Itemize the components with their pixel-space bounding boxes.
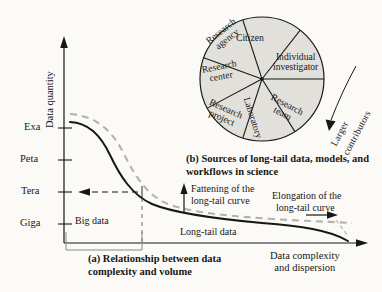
annotation-fattening-line2: long-tail curve xyxy=(191,195,250,206)
y-tick-label-peta: Peta xyxy=(20,153,38,165)
annotation-elongation-line1: Elongation of the xyxy=(272,190,341,201)
y-axis-title: Data quantity xyxy=(44,71,56,128)
contributors-arc xyxy=(331,66,356,120)
solid-longtail-curve xyxy=(70,122,348,241)
x-axis-arrowhead-icon xyxy=(356,239,368,247)
pie-center-dot xyxy=(260,77,264,81)
caption-panel-b: (b) Sources of long-tail data, models, a… xyxy=(186,153,382,179)
region-label-big-data: Big data xyxy=(75,215,109,226)
region-label-long-tail-data: Long-tail data xyxy=(180,226,236,237)
y-axis-arrowhead-icon xyxy=(60,36,68,48)
pie-label-individual-investigator: Individual investigator xyxy=(273,52,318,72)
big-data-bracket xyxy=(66,232,142,250)
annotation-elongation-line2: long-tail curve xyxy=(276,202,335,213)
caption-panel-a: (a) Relationship between data complexity… xyxy=(88,253,268,279)
x-axis-title: Data complexity and dispersion xyxy=(270,250,340,274)
y-tick-label-tera: Tera xyxy=(21,185,40,197)
figure-graphics xyxy=(0,0,382,292)
pie-label-individual-investigator-line2: investigator xyxy=(273,61,318,72)
fattening-arrowhead-icon xyxy=(180,183,187,194)
x-axis-title-line2: and dispersion xyxy=(274,262,335,273)
y-tick-label-exa: Exa xyxy=(24,121,40,133)
figure-root: Data quantity Exa Peta Tera Giga Big dat… xyxy=(0,0,382,292)
annotation-fattening-line1: Fattening of the xyxy=(191,183,254,194)
y-tick-label-giga: Giga xyxy=(20,217,40,229)
x-axis-title-line1: Data complexity xyxy=(270,250,340,261)
tera-level-arrowhead-icon xyxy=(78,188,90,196)
